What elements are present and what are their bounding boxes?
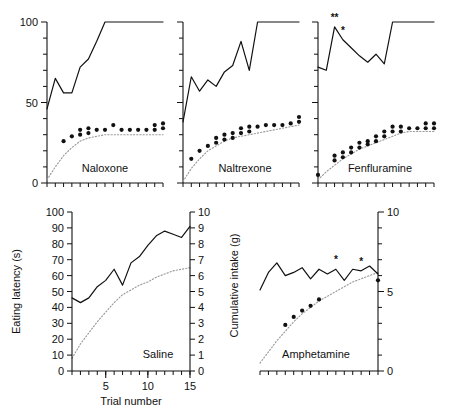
saline-y-tick-label-right: 3 (198, 317, 204, 329)
naltrexone-observed-intake-dot (247, 125, 251, 129)
amphetamine-y-tick-label-right: 0 (387, 365, 393, 377)
figure-svg: *****050100NaloxoneNaltrexoneFenfluramin… (0, 0, 456, 417)
saline-y-tick-label-right: 9 (198, 222, 204, 234)
naltrexone-observed-intake-dot (222, 133, 226, 137)
naloxone-y-tick-label: 0 (32, 177, 38, 189)
saline-x-tick-label: 10 (142, 380, 154, 392)
saline-y-tick-label-right: 6 (198, 270, 204, 282)
fenfluramine-observed-intake-dot (399, 125, 403, 129)
saline-y-tick-label-right: 8 (198, 238, 204, 250)
naltrexone-observed-intake-dot (214, 136, 218, 140)
amphetamine-significance-mark: * (334, 254, 338, 265)
naloxone-observed-intake-dot (111, 123, 115, 127)
naloxone-observed-intake-dot (70, 134, 74, 138)
saline-y-tick-label-left: 10 (52, 349, 64, 361)
naltrexone-observed-intake-dot (239, 131, 243, 135)
naltrexone-observed-intake-dot (189, 157, 193, 161)
naltrexone-panel-label: Naltrexone (218, 162, 271, 174)
fenfluramine-observed-intake-dot (424, 121, 428, 125)
naltrexone-observed-intake-dot (231, 136, 235, 140)
saline-y-tick-label-right: 10 (198, 206, 210, 218)
fenfluramine-observed-intake-dot (390, 125, 394, 129)
naloxone-panel-label: Naloxone (82, 162, 128, 174)
fenfluramine-observed-intake-dot (432, 126, 436, 130)
amphetamine-observed-intake-dot (283, 323, 287, 327)
naloxone-observed-intake-dot (78, 133, 82, 137)
saline-y-tick-label-left: 100 (46, 206, 64, 218)
amphetamine-observed-intake-dot (317, 297, 321, 301)
naloxone-observed-intake-dot (86, 131, 90, 135)
naloxone-observed-intake-dot (144, 128, 148, 132)
saline-y-tick-label-left: 40 (52, 301, 64, 313)
naloxone-observed-intake-dot (128, 128, 132, 132)
fenfluramine-observed-intake-dot (390, 129, 394, 133)
naloxone-observed-intake-dot (153, 123, 157, 127)
saline-y-tick-label-left: 50 (52, 286, 64, 298)
fenfluramine-observed-intake-dot (415, 126, 419, 130)
amphetamine-y-tick-label-right: 5 (387, 286, 393, 298)
naltrexone-observed-intake-dot (222, 137, 226, 141)
fenfluramine-observed-intake-dot (357, 141, 361, 145)
saline-y-tick-label-left: 70 (52, 254, 64, 266)
saline-y-tick-label-left: 90 (52, 222, 64, 234)
fenfluramine-observed-intake-dot (424, 126, 428, 130)
naloxone-observed-intake-dot (78, 128, 82, 132)
amphetamine-observed-intake-dot (308, 304, 312, 308)
naltrexone-observed-intake-dot (231, 131, 235, 135)
saline-y-tick-label-left: 30 (52, 317, 64, 329)
amphetamine-significance-mark: * (359, 256, 363, 267)
naloxone-observed-intake-dot (103, 128, 107, 132)
saline-y-tick-label-right: 4 (198, 301, 204, 313)
fenfluramine-observed-intake-dot (374, 139, 378, 143)
naloxone-observed-intake-dot (161, 121, 165, 125)
figure-panel-grid: *****050100NaloxoneNaltrexoneFenfluramin… (0, 0, 456, 417)
amphetamine-panel-label: Amphetamine (282, 348, 350, 360)
naltrexone-observed-intake-dot (272, 123, 276, 127)
saline-y-tick-label-left: 0 (58, 365, 64, 377)
fenfluramine-significance-mark: * (341, 25, 345, 36)
naloxone-observed-intake-dot (153, 128, 157, 132)
fenfluramine-observed-intake-dot (332, 158, 336, 162)
amphetamine-latency-line (260, 263, 378, 290)
fenfluramine-observed-intake-dot (332, 154, 336, 158)
amphetamine-observed-intake-dot (300, 308, 304, 312)
naloxone-observed-intake-dot (61, 139, 65, 143)
naloxone-observed-intake-dot (86, 126, 90, 130)
naltrexone-observed-intake-dot (280, 123, 284, 127)
naltrexone-observed-intake-dot (297, 115, 301, 119)
naltrexone-observed-intake-dot (264, 123, 268, 127)
naltrexone-latency-line (183, 22, 299, 122)
fenfluramine-observed-intake-dot (349, 145, 353, 149)
fenfluramine-observed-intake-dot (341, 150, 345, 154)
naltrexone-observed-intake-dot (239, 126, 243, 130)
naltrexone-observed-intake-dot (206, 144, 210, 148)
naltrexone-observed-intake-dot (197, 149, 201, 153)
naloxone-latency-line (47, 22, 163, 109)
y-axis-title-cumulative-intake: Cumulative intake (g) (228, 234, 240, 338)
naltrexone-observed-intake-dot (247, 129, 251, 133)
y-axis-title-eating-latency: Eating latency (s) (10, 249, 22, 334)
naloxone-y-tick-label: 50 (26, 97, 38, 109)
fenfluramine-observed-intake-dot (399, 129, 403, 133)
fenfluramine-observed-intake-dot (382, 134, 386, 138)
saline-x-tick-label: 5 (103, 380, 109, 392)
fenfluramine-observed-intake-dot (382, 129, 386, 133)
saline-latency-line (72, 226, 190, 302)
saline-y-tick-label-right: 7 (198, 254, 204, 266)
naltrexone-observed-intake-dot (255, 125, 259, 129)
fenfluramine-observed-intake-dot (357, 145, 361, 149)
saline-x-tick-label: 15 (184, 380, 196, 392)
fenfluramine-significance-mark: ** (331, 12, 339, 23)
fenfluramine-observed-intake-dot (374, 134, 378, 138)
fenfluramine-observed-intake-dot (341, 155, 345, 159)
fenfluramine-observed-intake-dot (316, 173, 320, 177)
fenfluramine-latency-line (318, 22, 434, 70)
naltrexone-observed-intake-dot (297, 120, 301, 124)
naloxone-observed-intake-dot (95, 128, 99, 132)
saline-y-tick-label-left: 80 (52, 238, 64, 250)
naltrexone-observed-intake-dot (289, 121, 293, 125)
saline-panel-label: Saline (143, 348, 174, 360)
fenfluramine-panel-label: Fenfluramine (348, 162, 412, 174)
fenfluramine-observed-intake-dot (366, 139, 370, 143)
amphetamine-observed-intake-dot (292, 315, 296, 319)
